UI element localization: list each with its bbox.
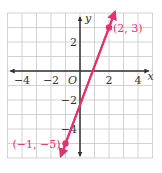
x-tick-label: 2 [106, 74, 113, 87]
y-tick-label: 2 [70, 36, 77, 49]
point-label: (−1, −5) [12, 138, 60, 151]
origin-label: O [68, 74, 77, 87]
axes [11, 17, 149, 156]
point-label: (2, 3) [113, 22, 143, 35]
data-point-marker [106, 24, 112, 30]
x-tick-label: 4 [135, 74, 142, 87]
y-tick-label: −2 [61, 94, 77, 107]
x-tick-label: −4 [14, 74, 30, 87]
x-tick-label: −2 [43, 74, 59, 87]
coordinate-graph: −4−2242−2−4Oxy (2, 3)(−1, −5) [0, 0, 162, 173]
data-points: (2, 3)(−1, −5) [12, 22, 142, 151]
data-point-marker [62, 140, 68, 146]
x-axis-label: x [148, 70, 155, 83]
y-axis-label: y [84, 12, 92, 25]
